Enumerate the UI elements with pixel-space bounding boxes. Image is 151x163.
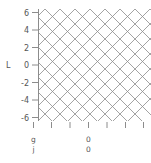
y-tick-label: 2 [24,44,29,53]
y-tick-label: -6 [21,114,29,123]
x-tick-label-group-2: 0 0 [86,135,91,154]
x-tick-label-line: g [31,135,36,144]
x-tick-label-line: 0 [86,135,91,144]
y-tick-label: 6 [24,9,29,18]
y-tick-label: -4 [21,96,29,105]
chart-svg: 6 4 2 0 -2 -4 -6 L g j 0 0 [0,0,151,163]
x-tick-label-line: j [31,145,34,154]
y-tick-label: 0 [24,61,29,70]
x-tick-label-line: 0 [86,145,91,154]
y-axis-title: L [6,61,11,70]
y-tick-label: 4 [24,26,29,35]
y-tick-label: -2 [21,79,29,88]
chart-figure: 6 4 2 0 -2 -4 -6 L g j 0 0 [0,0,151,163]
